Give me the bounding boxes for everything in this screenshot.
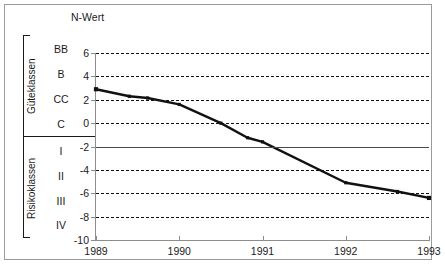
data-point-marker [344,181,347,184]
gridline-0 [96,123,429,124]
data-point-marker [261,140,264,143]
chart-frame: Güteklassen Risikoklassen BB B CC C I II… [4,4,432,260]
y-tick-mark-6 [91,53,96,54]
x-tick-mark-1989 [96,236,97,241]
x-tick-label-1989: 1989 [74,245,118,257]
chart-title: N-Wert [71,11,104,23]
data-point-marker [427,196,431,200]
y-tick-mark-0 [91,123,96,124]
y-tick-label-4: 4 [83,71,89,81]
y-tick-mark-2 [91,100,96,101]
gridline--4 [96,170,429,171]
y-tick-label--8: -8 [80,212,89,222]
plot-area [96,53,429,240]
x-tick-mark-1991 [263,236,264,241]
data-point-marker [94,87,98,91]
gridline--8 [96,217,429,218]
y-tick-mark-4 [91,76,96,77]
data-point-marker [128,95,131,98]
class-bracket-top-cap [23,35,30,36]
y-tick-mark--2 [91,147,96,148]
gridline-6 [96,53,429,54]
gridline--6 [96,193,429,194]
x-tick-mark-1990 [179,236,180,241]
data-point-marker [246,136,249,139]
y-tick-label-6: 6 [83,48,89,58]
class-bracket-bottom-cap [23,237,30,238]
x-tick-label-1992: 1992 [324,245,368,257]
x-tick-mark-1993 [429,236,430,241]
y-tick-mark--8 [91,217,96,218]
y-tick-label--6: -6 [80,188,89,198]
series-line-N-Wert [96,89,429,198]
y-tick-mark--6 [91,193,96,194]
x-tick-label-1993: 1993 [407,245,445,257]
y-axis-tick-labels: 6420-2-4-6-8-10 [67,27,89,239]
x-tick-label-1990: 1990 [157,245,201,257]
gridline-4 [96,76,429,77]
y-tick-label--2: -2 [80,142,89,152]
threshold-line [96,147,429,148]
y-tick-label-2: 2 [83,95,89,105]
x-tick-label-1991: 1991 [241,245,285,257]
plot-region: 6420-2-4-6-8-10 19891990199119921993 [67,27,429,251]
y-tick-label-0: 0 [83,118,89,128]
risk-class-group-label: Risikoklassen [26,141,37,235]
gridline-2 [96,100,429,101]
data-point-marker [178,103,181,106]
quality-class-group-label: Güteklassen [26,39,37,133]
x-tick-mark-1992 [346,236,347,241]
y-tick-mark--4 [91,170,96,171]
y-tick-label--4: -4 [80,165,89,175]
y-tick-label--10: -10 [74,235,89,245]
